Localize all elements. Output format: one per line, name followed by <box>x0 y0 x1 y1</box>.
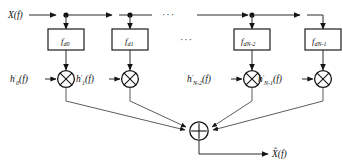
gain-label-2: h′N-2(f) <box>187 74 211 86</box>
multiplier-0 <box>58 71 75 88</box>
multiplier-1 <box>122 71 139 88</box>
ellipsis-blocks: ··· <box>180 34 193 45</box>
gain-label-3: h′N-1(f) <box>258 74 282 86</box>
gain-label-0: h′0(f) <box>10 74 28 86</box>
sum-path-0 <box>66 87 185 130</box>
multiplier-3 <box>315 71 332 88</box>
sum-path-1 <box>130 87 186 127</box>
output-path <box>199 140 268 154</box>
block-diagram-figure: fd0 fd1 fdN-2 fdN-1 <box>0 0 343 167</box>
gain-label-1: h′1(f) <box>76 74 94 86</box>
sum-path-3 <box>213 87 323 130</box>
output-label: X̂(f) <box>271 147 287 160</box>
input-label: X(f) <box>7 10 23 21</box>
ellipsis-bus: ··· <box>162 9 175 20</box>
summing-junction <box>190 122 208 140</box>
